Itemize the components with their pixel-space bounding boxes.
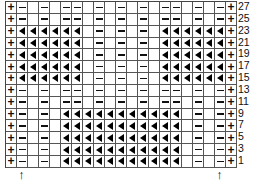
blank-cell (149, 2, 160, 14)
triangle-stitch-icon (160, 156, 171, 168)
purl-stitch-icon (193, 132, 204, 144)
blank-cell (204, 132, 215, 144)
row-label: 11 (238, 96, 250, 108)
triangle-stitch-icon (193, 49, 204, 61)
purl-stitch-icon (193, 120, 204, 132)
triangle-stitch-icon (160, 26, 171, 38)
purl-stitch-icon (215, 97, 226, 109)
triangle-stitch-icon (204, 26, 215, 38)
triangle-stitch-icon (28, 38, 39, 50)
triangle-stitch-icon (50, 73, 61, 85)
blank-cell (28, 156, 39, 168)
triangle-stitch-icon (127, 132, 138, 144)
triangle-stitch-icon (160, 120, 171, 132)
purl-stitch-icon (39, 132, 50, 144)
purl-stitch-icon (94, 85, 105, 97)
purl-stitch-icon (39, 109, 50, 121)
triangle-stitch-icon (28, 61, 39, 73)
triangle-stitch-icon (215, 73, 226, 85)
purl-stitch-icon (215, 14, 226, 26)
triangle-stitch-icon (72, 38, 83, 50)
blank-cell (28, 120, 39, 132)
triangle-stitch-icon (28, 73, 39, 85)
blank-cell (149, 14, 160, 26)
triangle-stitch-icon (94, 120, 105, 132)
purl-stitch-icon (160, 97, 171, 109)
triangle-stitch-icon (171, 132, 182, 144)
triangle-stitch-icon (39, 26, 50, 38)
blank-cell (149, 26, 160, 38)
triangle-stitch-icon (83, 144, 94, 156)
triangle-stitch-icon (182, 61, 193, 73)
purl-stitch-icon (72, 2, 83, 14)
blank-cell (105, 61, 116, 73)
triangle-stitch-icon (17, 61, 28, 73)
triangle-stitch-icon (204, 61, 215, 73)
blank-cell (105, 97, 116, 109)
purl-stitch-icon (61, 85, 72, 97)
triangle-stitch-icon (105, 109, 116, 121)
row-number-labels: 27252321191715131197531 (238, 1, 250, 167)
triangle-stitch-icon (182, 49, 193, 61)
triangle-stitch-icon (61, 73, 72, 85)
blank-cell (50, 97, 61, 109)
triangle-stitch-icon (17, 26, 28, 38)
purl-stitch-icon (17, 120, 28, 132)
purl-stitch-icon (116, 85, 127, 97)
blank-cell (204, 144, 215, 156)
triangle-stitch-icon (160, 109, 171, 121)
triangle-stitch-icon (127, 120, 138, 132)
purl-stitch-icon (193, 97, 204, 109)
triangle-stitch-icon (171, 144, 182, 156)
row-label: 23 (238, 25, 250, 37)
purl-stitch-icon (17, 132, 28, 144)
triangle-stitch-icon (160, 144, 171, 156)
blank-cell (127, 97, 138, 109)
blank-cell (149, 61, 160, 73)
triangle-stitch-icon (215, 38, 226, 50)
triangle-stitch-icon (72, 73, 83, 85)
triangle-stitch-icon (160, 132, 171, 144)
triangle-stitch-icon (50, 49, 61, 61)
purl-stitch-icon (94, 14, 105, 26)
blank-cell (83, 49, 94, 61)
triangle-stitch-icon (193, 73, 204, 85)
triangle-stitch-icon (61, 156, 72, 168)
triangle-stitch-icon (116, 156, 127, 168)
purl-stitch-icon (138, 26, 149, 38)
purl-stitch-icon (215, 109, 226, 121)
blank-cell (105, 38, 116, 50)
triangle-stitch-icon (138, 144, 149, 156)
triangle-stitch-icon (39, 49, 50, 61)
triangle-stitch-icon (204, 49, 215, 61)
triangle-stitch-icon (94, 144, 105, 156)
purl-stitch-icon (39, 85, 50, 97)
triangle-stitch-icon (116, 109, 127, 121)
blank-cell (50, 2, 61, 14)
triangle-stitch-icon (182, 38, 193, 50)
triangle-stitch-icon (61, 132, 72, 144)
blank-cell (105, 14, 116, 26)
triangle-stitch-icon (127, 109, 138, 121)
triangle-stitch-icon (193, 26, 204, 38)
purl-stitch-icon (17, 144, 28, 156)
blank-cell (28, 97, 39, 109)
purl-stitch-icon (116, 97, 127, 109)
purl-stitch-icon (116, 26, 127, 38)
purl-stitch-icon (116, 14, 127, 26)
blank-cell (83, 73, 94, 85)
triangle-stitch-icon (171, 109, 182, 121)
triangle-stitch-icon (160, 73, 171, 85)
blank-cell (149, 85, 160, 97)
blank-cell (127, 85, 138, 97)
triangle-stitch-icon (149, 132, 160, 144)
triangle-stitch-icon (215, 61, 226, 73)
triangle-stitch-icon (17, 73, 28, 85)
purl-stitch-icon (160, 14, 171, 26)
triangle-stitch-icon (105, 156, 116, 168)
triangle-stitch-icon (171, 156, 182, 168)
blank-cell (50, 144, 61, 156)
purl-stitch-icon (17, 14, 28, 26)
purl-stitch-icon (116, 73, 127, 85)
blank-cell (182, 156, 193, 168)
